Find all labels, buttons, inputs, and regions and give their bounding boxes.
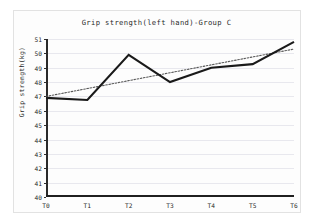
y-axis-tick-label: 40	[35, 194, 42, 201]
x-axis-tick-label: T6	[290, 202, 297, 209]
x-axis-tick-label: T5	[249, 202, 256, 209]
y-axis-tick-label: 50	[35, 50, 42, 57]
series-plot	[46, 39, 294, 197]
x-axis-tick-label: T4	[208, 202, 215, 209]
trendline-dotted	[46, 49, 294, 96]
y-axis-tick-label: 46	[35, 107, 42, 114]
chart-title: Grip strength(left hand)-Group C	[0, 18, 313, 27]
data-line-solid	[46, 42, 294, 100]
y-axis-tick-mark	[44, 197, 47, 198]
y-axis-tick-label: 44	[35, 136, 42, 143]
x-axis-tick-label: T0	[42, 202, 49, 209]
x-axis-tick-label: T2	[125, 202, 132, 209]
y-axis-tick-label: 48	[35, 79, 42, 86]
chart-figure: Grip strength(left hand)-Group C Grip st…	[0, 0, 313, 224]
y-axis-tick-label: 47	[35, 93, 42, 100]
plot-area: 404142434445464748495051 T0T1T2T3T4T5T6	[46, 39, 294, 197]
y-axis-label: Grip strength(kg)	[18, 42, 26, 122]
y-axis-tick-label: 51	[35, 36, 42, 43]
x-axis-tick-label: T1	[84, 202, 91, 209]
y-axis-tick-label: 43	[35, 150, 42, 157]
y-axis-tick-label: 45	[35, 122, 42, 129]
y-axis-tick-label: 49	[35, 64, 42, 71]
x-axis-tick-label: T3	[166, 202, 173, 209]
y-axis-tick-label: 41	[35, 179, 42, 186]
y-axis-tick-label: 42	[35, 165, 42, 172]
